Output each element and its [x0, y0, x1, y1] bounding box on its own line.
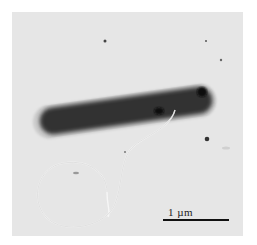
polar-granule: [197, 87, 207, 97]
granule: [154, 108, 164, 115]
scale-bar-label: 1 µm: [168, 206, 193, 218]
scale-bar: [163, 219, 229, 221]
debris-speck: [220, 59, 222, 61]
debris-speck: [73, 172, 79, 174]
debris-speck: [222, 147, 230, 150]
debris-speck: [104, 40, 107, 43]
cell-body: [38, 85, 214, 136]
debris-speck: [124, 151, 126, 153]
debris-speck: [205, 137, 210, 142]
debris-speck: [205, 40, 207, 42]
micrograph-image: 1 µm: [12, 12, 243, 236]
bacterium-illustration: [12, 12, 243, 236]
